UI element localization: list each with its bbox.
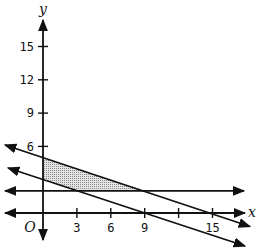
origin-label: O xyxy=(24,219,36,235)
x-tick-label-15: 15 xyxy=(205,221,219,235)
y-tick-label-6: 6 xyxy=(27,140,34,154)
y-axis-label: y xyxy=(38,1,48,17)
x-tick-label-3: 3 xyxy=(73,221,80,235)
y-tick-label-9: 9 xyxy=(27,106,34,120)
y-tick-label-12: 12 xyxy=(20,73,34,87)
y-tick-label-15: 15 xyxy=(20,40,34,54)
x-tick-label-6: 6 xyxy=(107,221,114,235)
graph: 3 6 9 15 6 9 12 15 y x O xyxy=(0,0,261,249)
x-axis-label: x xyxy=(248,204,256,220)
line-upper-boundary xyxy=(5,145,250,227)
x-tick-label-9: 9 xyxy=(141,221,148,235)
